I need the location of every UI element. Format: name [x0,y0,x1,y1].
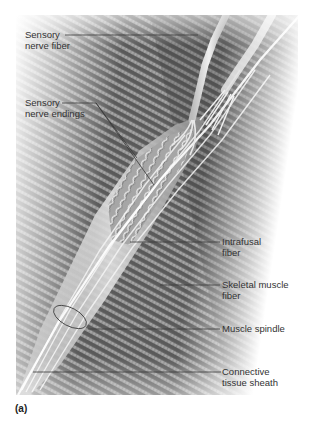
label-sensory-nerve-endings: Sensory nerve endings [25,97,85,119]
label-sensory-nerve-fiber: Sensory nerve fiber [25,29,70,51]
label-connective-tissue-sheath: Connective tissue sheath [222,366,278,388]
label-skeletal-muscle-fiber: Skeletal muscle fiber [222,279,289,301]
label-muscle-spindle: Muscle spindle [222,323,285,334]
muscle-spindle-illustration [0,0,315,425]
panel-label: (a) [15,403,27,414]
muscle-spindle-figure: Sensory nerve fiber Sensory nerve ending… [0,0,315,425]
label-intrafusal-fiber: Intrafusal fiber [222,236,261,258]
